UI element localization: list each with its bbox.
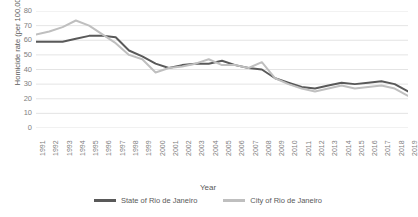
legend-item-1[interactable]: State of Rio de Janeiro bbox=[94, 196, 197, 205]
x-tick-label: 1994 bbox=[79, 140, 86, 156]
y-tick-label: 50 bbox=[12, 51, 32, 59]
y-tick-label: 20 bbox=[12, 95, 32, 103]
x-axis-tick-labels: 1991199219931994199519961997199819992000… bbox=[36, 130, 408, 170]
x-tick-label: 2003 bbox=[198, 140, 205, 156]
x-tick-label: 1999 bbox=[145, 140, 152, 156]
x-tick-label: 2000 bbox=[159, 140, 166, 156]
x-tick-label: 2015 bbox=[358, 140, 365, 156]
series-lines bbox=[36, 21, 408, 96]
x-tick-label: 2010 bbox=[291, 140, 298, 156]
x-tick-label: 2016 bbox=[371, 140, 378, 156]
x-tick-label: 1996 bbox=[105, 140, 112, 156]
legend-swatch-icon bbox=[94, 199, 116, 202]
x-tick-label: 2005 bbox=[225, 140, 232, 156]
x-tick-label: 2018 bbox=[398, 140, 405, 156]
legend-label: City of Rio de Janeiro bbox=[250, 196, 322, 205]
plot-svg bbox=[36, 11, 408, 128]
x-tick-label: 2001 bbox=[172, 140, 179, 156]
x-tick-label: 2009 bbox=[278, 140, 285, 156]
y-tick-label: 0 bbox=[12, 124, 32, 132]
x-tick-label: 1995 bbox=[92, 140, 99, 156]
x-tick-label: 2004 bbox=[212, 140, 219, 156]
y-tick-label: 10 bbox=[12, 109, 32, 117]
x-tick-label: 2007 bbox=[252, 140, 259, 156]
y-tick-label: 30 bbox=[12, 80, 32, 88]
x-tick-label: 1998 bbox=[132, 140, 139, 156]
x-tick-label: 2011 bbox=[305, 141, 312, 156]
x-tick-label: 2019 bbox=[411, 140, 418, 156]
x-tick-label: 2013 bbox=[331, 140, 338, 156]
x-tick-label: 2008 bbox=[265, 140, 272, 156]
chart-legend: State of Rio de JaneiroCity of Rio de Ja… bbox=[0, 196, 416, 205]
x-tick-label: 2006 bbox=[238, 140, 245, 156]
x-tick-label: 2017 bbox=[384, 140, 391, 156]
x-tick-label: 2012 bbox=[318, 140, 325, 156]
x-tick-label: 1997 bbox=[119, 140, 126, 156]
x-tick-label: 1993 bbox=[66, 140, 73, 156]
x-tick-label: 1991 bbox=[39, 140, 46, 156]
legend-item-2[interactable]: City of Rio de Janeiro bbox=[223, 196, 322, 205]
plot-area bbox=[36, 11, 408, 128]
y-tick-label: 60 bbox=[12, 36, 32, 44]
y-tick-label: 80 bbox=[12, 7, 32, 15]
x-tick-label: 2002 bbox=[185, 140, 192, 156]
x-tick-label: 1992 bbox=[52, 140, 59, 156]
series-line-1 bbox=[36, 36, 408, 92]
y-tick-label: 70 bbox=[12, 22, 32, 30]
legend-label: State of Rio de Janeiro bbox=[121, 196, 197, 205]
y-tick-label: 40 bbox=[12, 66, 32, 74]
legend-swatch-icon bbox=[223, 199, 245, 202]
x-tick-label: 2014 bbox=[345, 140, 352, 156]
x-axis-title: Year bbox=[0, 183, 416, 192]
